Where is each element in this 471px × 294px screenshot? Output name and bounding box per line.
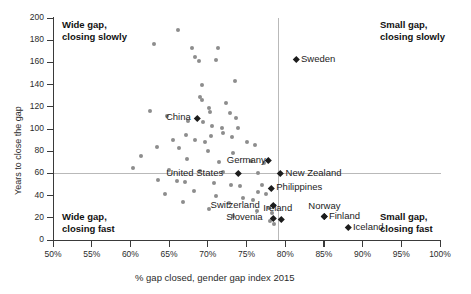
scatter-chart: Years to close the gap % gap closed, gen… — [0, 0, 471, 294]
data-point — [234, 116, 238, 120]
x-tick-mark — [91, 241, 92, 247]
data-point — [155, 145, 159, 149]
data-point — [210, 124, 214, 128]
point-label-new-zealand: New Zealand — [286, 168, 342, 178]
point-label-sweden: Sweden — [301, 54, 335, 64]
y-tick-label: 0 — [18, 235, 44, 244]
x-tick-label: 60% — [110, 250, 150, 259]
data-point — [192, 189, 196, 193]
data-point — [171, 138, 175, 142]
data-point — [238, 184, 242, 188]
x-tick-label: 90% — [343, 250, 383, 259]
point-label-china: China — [166, 112, 191, 122]
data-point — [264, 192, 268, 196]
data-point — [197, 59, 201, 63]
x-tick-mark — [323, 241, 324, 247]
data-point — [216, 46, 220, 50]
point-label-norway: Norway — [308, 201, 340, 211]
y-tick-label: 100 — [18, 124, 44, 133]
data-point — [212, 181, 216, 185]
y-tick-label: 20 — [18, 213, 44, 222]
y-tick-mark — [47, 173, 53, 174]
y-tick-mark — [47, 106, 53, 107]
x-tick-label: 85% — [304, 250, 344, 259]
data-point — [156, 178, 160, 182]
data-point — [152, 42, 156, 46]
data-point — [131, 166, 135, 170]
y-tick-label: 140 — [18, 80, 44, 89]
data-point — [176, 28, 180, 32]
data-point-ireland — [278, 216, 284, 222]
y-tick-mark — [47, 151, 53, 152]
x-tick-label: 70% — [188, 250, 228, 259]
x-tick-label: 100% — [420, 250, 460, 259]
point-label-germany: Germany — [227, 155, 266, 165]
y-tick-mark — [47, 129, 53, 130]
data-point — [200, 98, 204, 102]
data-point — [163, 192, 167, 196]
x-tick-mark — [169, 241, 170, 247]
point-label-ireland: Ireland — [263, 203, 292, 213]
x-tick-mark — [130, 241, 131, 247]
data-point — [139, 154, 143, 158]
quadrant-label-bottom-left: Wide gap,closing fast — [62, 211, 115, 234]
data-point — [207, 106, 211, 110]
data-point — [245, 140, 249, 144]
data-point — [183, 180, 187, 184]
y-tick-label: 40 — [18, 191, 44, 200]
x-tick-mark — [53, 241, 54, 247]
data-point — [185, 157, 189, 161]
data-point-finland — [321, 213, 327, 219]
data-point — [148, 109, 152, 113]
data-point — [203, 140, 207, 144]
point-label-switzerland: Switzerland — [211, 200, 260, 210]
data-point — [201, 120, 205, 124]
data-point — [221, 131, 225, 135]
data-point-iceland — [345, 225, 351, 231]
data-point — [236, 126, 240, 130]
data-point — [193, 138, 197, 142]
data-point — [253, 143, 257, 147]
y-tick-label: 180 — [18, 35, 44, 44]
x-tick-mark — [285, 241, 286, 247]
y-tick-mark — [47, 62, 53, 63]
data-point — [200, 83, 204, 87]
data-point — [193, 55, 197, 59]
data-point-sweden — [293, 56, 299, 62]
y-tick-label: 120 — [18, 102, 44, 111]
data-point — [181, 200, 185, 204]
quadrant-label-bottom-right: Small gap,closing fast — [380, 211, 433, 234]
data-point — [256, 190, 260, 194]
data-point — [256, 171, 260, 175]
data-point — [217, 160, 221, 164]
x-tick-label: 75% — [227, 250, 267, 259]
y-tick-mark — [47, 195, 53, 196]
x-tick-mark — [401, 241, 402, 247]
point-label-philippines: Philippines — [276, 182, 322, 192]
x-tick-mark — [246, 241, 247, 247]
y-tick-mark — [47, 84, 53, 85]
data-point — [229, 183, 233, 187]
point-label-united-states: United States — [166, 168, 223, 178]
y-tick-mark — [47, 217, 53, 218]
point-label-finland: Finland — [329, 211, 360, 221]
y-axis-line — [53, 17, 54, 241]
data-point — [233, 79, 237, 83]
data-point — [272, 222, 276, 226]
y-tick-label: 80 — [18, 146, 44, 155]
data-point — [228, 111, 232, 115]
y-tick-label: 60 — [18, 168, 44, 177]
data-point — [214, 194, 218, 198]
x-tick-mark — [440, 241, 441, 247]
data-point — [220, 126, 224, 130]
point-label-slovenia: Slovenia — [226, 212, 262, 222]
data-point — [230, 135, 234, 139]
data-point — [206, 149, 210, 153]
data-point — [190, 46, 194, 50]
data-point-united-states — [236, 170, 242, 176]
reference-line-horizontal — [54, 173, 441, 174]
data-point — [224, 101, 228, 105]
data-point-china — [194, 115, 200, 121]
point-label-iceland: Iceland — [353, 222, 384, 232]
quadrant-label-top-left: Wide gap,closing slowly — [62, 19, 127, 42]
